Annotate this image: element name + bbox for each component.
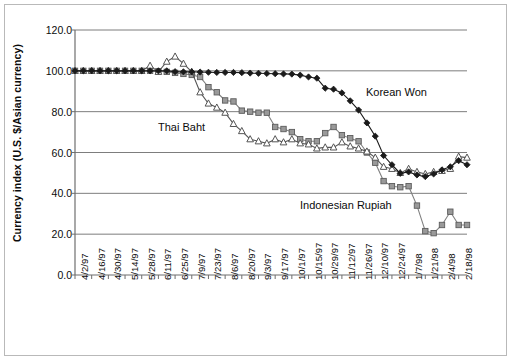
marker-triangle (197, 89, 204, 95)
marker-square (247, 109, 252, 114)
x-axis-tick-label: 4/2/97 (79, 253, 90, 280)
x-axis-tick-label: 9/3/97 (262, 253, 273, 280)
marker-triangle (272, 136, 279, 142)
chart-plot-area (0, 0, 511, 360)
x-axis-tick-label: 5/14/97 (129, 248, 140, 280)
annotation-korean-won: Korean Won (366, 86, 427, 98)
marker-diamond (230, 69, 236, 75)
marker-diamond (464, 162, 470, 168)
marker-diamond (205, 69, 211, 75)
x-axis-tick-label: 9/17/97 (279, 248, 290, 280)
marker-diamond (280, 71, 286, 77)
annotation-thai-baht: Thai Baht (158, 121, 205, 133)
marker-square (272, 124, 277, 129)
figure-border (5, 5, 507, 356)
x-axis-tick-label: 2/4/98 (446, 253, 457, 280)
x-axis-tick-label: 12/24/97 (396, 243, 407, 280)
marker-diamond (364, 120, 370, 126)
marker-triangle (347, 143, 354, 149)
marker-square (373, 160, 378, 165)
marker-triangle (163, 58, 170, 64)
marker-square (231, 99, 236, 104)
x-axis-tick-label: 7/23/97 (212, 248, 223, 280)
marker-square (448, 209, 453, 214)
marker-square (431, 230, 436, 235)
marker-square (239, 108, 244, 113)
marker-square (214, 90, 219, 95)
x-axis-tick-label: 6/25/97 (179, 248, 190, 280)
x-axis-tick-label: 1/7/98 (413, 253, 424, 280)
marker-square (264, 110, 269, 115)
x-axis-tick-label: 10/15/97 (313, 243, 324, 280)
marker-triangle (213, 104, 220, 110)
marker-square (398, 185, 403, 190)
marker-triangle (339, 139, 346, 145)
marker-diamond (289, 71, 295, 77)
marker-square (356, 139, 361, 144)
x-axis-tick-label: 8/6/97 (229, 253, 240, 280)
marker-square (348, 136, 353, 141)
marker-diamond (214, 69, 220, 75)
marker-diamond (330, 86, 336, 92)
marker-square (222, 98, 227, 103)
marker-triangle (172, 53, 179, 59)
marker-square (439, 222, 444, 227)
chart-figure: Currency index (U.S. $/Asian currency) 0… (0, 0, 511, 360)
x-axis-tick-label: 8/20/97 (246, 248, 257, 280)
marker-square (331, 124, 336, 129)
marker-square (389, 183, 394, 188)
series-korean-won (72, 68, 470, 180)
x-axis-tick-label: 4/16/97 (96, 248, 107, 280)
x-axis-tick-label: 7/9/97 (196, 253, 207, 280)
marker-triangle (289, 136, 296, 142)
marker-square (314, 139, 319, 144)
marker-square (406, 183, 411, 188)
marker-diamond (305, 74, 311, 80)
marker-square (289, 129, 294, 134)
x-axis-tick-label: 11/12/97 (346, 243, 357, 280)
x-axis-tick-label: 4/30/97 (112, 248, 123, 280)
marker-square (256, 110, 261, 115)
marker-triangle (222, 109, 229, 115)
marker-square (414, 203, 419, 208)
series-line (75, 57, 467, 174)
x-axis-tick-label: 11/26/97 (363, 243, 374, 280)
marker-diamond (372, 133, 378, 139)
marker-square (206, 84, 211, 89)
marker-square (339, 132, 344, 137)
x-axis-tick-label: 5/28/97 (146, 248, 157, 280)
marker-diamond (222, 69, 228, 75)
annotation-indonesian-rupiah: Indonesian Rupiah (300, 199, 392, 211)
marker-square (423, 228, 428, 233)
x-axis-tick-label: 1/21/98 (429, 248, 440, 280)
marker-triangle (372, 154, 379, 160)
x-axis-tick-label: 12/10/97 (379, 243, 390, 280)
marker-square (456, 222, 461, 227)
marker-square (464, 222, 469, 227)
marker-diamond (297, 72, 303, 78)
marker-square (281, 126, 286, 131)
x-axis-tick-label: 2/18/98 (463, 248, 474, 280)
x-axis-tick-label: 10/1/97 (296, 248, 307, 280)
marker-square (381, 178, 386, 183)
marker-square (323, 130, 328, 135)
marker-diamond (272, 71, 278, 77)
x-axis-tick-label: 6/11/97 (162, 249, 173, 280)
x-axis-tick-label: 10/29/97 (329, 243, 340, 280)
